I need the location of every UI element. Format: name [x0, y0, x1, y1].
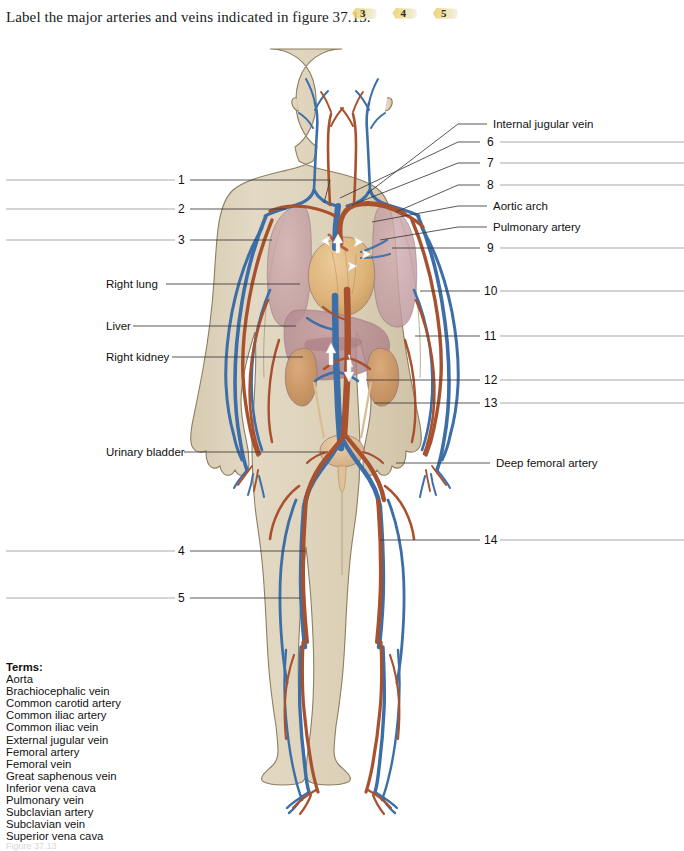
heart-organ [308, 237, 374, 316]
callout-left-5[interactable]: 5 [178, 592, 185, 604]
callout-left-3[interactable]: 3 [178, 234, 185, 246]
term-item[interactable]: Great saphenous vein [6, 770, 121, 782]
term-item[interactable]: Pulmonary vein [6, 794, 121, 806]
term-item[interactable]: Subclavian vein [6, 818, 121, 830]
terms-heading: Terms: [6, 661, 121, 673]
callout-left-4[interactable]: 4 [178, 545, 185, 557]
callout-internal-jugular-vein: Internal jugular vein [493, 118, 593, 130]
terms-list: Terms: Aorta Brachiocephalic vein Common… [6, 661, 121, 842]
callout-aortic-arch: Aortic arch [493, 200, 548, 212]
term-item[interactable]: External jugular vein [6, 734, 121, 746]
callout-right-kidney: Right kidney [106, 351, 169, 363]
callout-right-11[interactable]: 11 [484, 330, 496, 342]
term-item[interactable]: Femoral vein [6, 758, 121, 770]
callout-right-8[interactable]: 8 [487, 179, 494, 191]
callout-right-6[interactable]: 6 [487, 136, 494, 148]
ear-right [385, 98, 392, 111]
callout-right-7[interactable]: 7 [487, 157, 494, 169]
callout-left-1[interactable]: 1 [178, 174, 185, 186]
callout-right-14[interactable]: 14 [484, 534, 497, 546]
callout-left-2[interactable]: 2 [178, 203, 185, 215]
callout-deep-femoral-artery: Deep femoral artery [496, 457, 598, 469]
term-item[interactable]: Aorta [6, 673, 121, 685]
callout-right-13[interactable]: 13 [484, 397, 497, 409]
callout-right-10[interactable]: 10 [484, 285, 497, 297]
callout-right-9[interactable]: 9 [487, 242, 494, 254]
callout-urinary-bladder: Urinary bladder [106, 446, 185, 458]
body-silhouette [191, 49, 422, 785]
callout-liver: Liver [106, 320, 128, 332]
callout-right-12[interactable]: 12 [484, 374, 497, 386]
left-lung-organ [373, 205, 417, 327]
figure-caption: Figure 37.13 [6, 841, 57, 851]
left-kidney-organ [367, 348, 399, 406]
callout-right-lung: Right lung [106, 278, 158, 290]
term-item[interactable]: Inferior vena cava [6, 782, 121, 794]
callout-pulmonary-artery: Pulmonary artery [493, 221, 581, 233]
term-item[interactable]: Subclavian artery [6, 806, 121, 818]
term-item[interactable]: Common iliac vein [6, 721, 121, 733]
term-item[interactable]: Femoral artery [6, 746, 121, 758]
term-item[interactable]: Common iliac artery [6, 709, 121, 721]
term-item[interactable]: Common carotid artery [6, 697, 121, 709]
term-item[interactable]: Brachiocephalic vein [6, 685, 121, 697]
